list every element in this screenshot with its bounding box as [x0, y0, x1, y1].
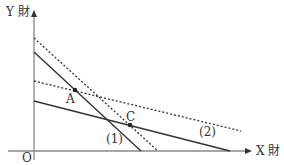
y-axis-label: Y 財	[6, 6, 30, 18]
point-a-label: A	[66, 93, 75, 105]
budget-line-1	[34, 52, 141, 151]
dotted-steep-line	[34, 38, 158, 151]
x-axis-label: X 財	[256, 145, 280, 157]
point-c-label: C	[126, 111, 135, 123]
line-2-label: (2)	[199, 126, 216, 138]
line-1-label: (1)	[106, 133, 123, 145]
x-axis-arrow-icon	[245, 148, 252, 154]
diagram-canvas	[0, 0, 284, 165]
origin-label: O	[22, 152, 32, 164]
y-axis-arrow-icon	[31, 10, 37, 17]
dotted-shallow-line	[34, 81, 241, 131]
